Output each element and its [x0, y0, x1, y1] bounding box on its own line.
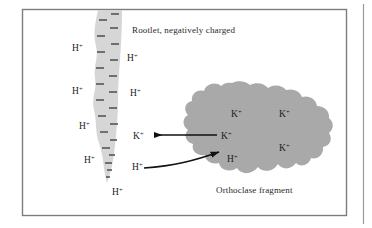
- rootlet-caption: Rootlet, negatively charged: [132, 25, 235, 35]
- ion-exchange-diagram: H+ H+ H+ H+ H+ H+ H+ H+ K+ K+ K+ K+ K+ H…: [0, 0, 372, 228]
- figure-container: H+ H+ H+ H+ H+ H+ H+ H+ K+ K+ K+ K+ K+ H…: [0, 0, 372, 228]
- fragment-caption: Orthoclase fragment: [216, 185, 293, 195]
